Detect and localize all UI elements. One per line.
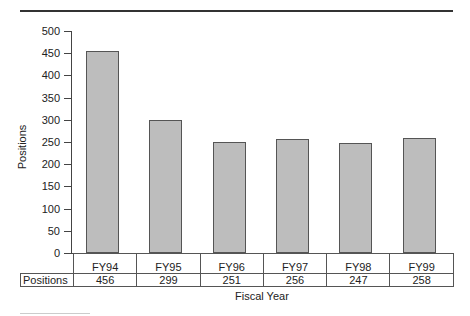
value-cell: 299 — [137, 274, 200, 287]
y-tick-label: 250 — [20, 136, 60, 148]
bar-fy95 — [149, 120, 182, 253]
y-tick-label: 400 — [20, 69, 60, 81]
x-axis-label: Fiscal Year — [235, 290, 289, 302]
top-rule — [20, 10, 453, 12]
value-cell: 456 — [74, 274, 137, 287]
y-tick — [64, 75, 71, 76]
value-cell: 256 — [263, 274, 326, 287]
category-label: FY95 — [137, 254, 200, 274]
bar-fy97 — [276, 139, 309, 253]
y-axis — [71, 31, 72, 253]
y-tick — [64, 209, 71, 210]
value-cell: 247 — [327, 274, 390, 287]
y-tick-label: 50 — [20, 225, 60, 237]
y-tick-label: 150 — [20, 180, 60, 192]
bar-fy99 — [403, 138, 436, 253]
data-table: FY94FY95FY96FY97FY98FY99 Positions 45629… — [20, 253, 454, 287]
y-tick — [64, 31, 71, 32]
category-label: FY94 — [74, 254, 137, 274]
y-tick-label: 300 — [20, 114, 60, 126]
category-label: FY98 — [327, 254, 390, 274]
y-tick — [64, 231, 71, 232]
category-label: FY96 — [200, 254, 263, 274]
data-table-row-label: Positions — [21, 274, 74, 287]
bar-fy98 — [339, 143, 372, 253]
y-tick — [64, 98, 71, 99]
y-tick — [64, 142, 71, 143]
y-tick-label: 200 — [20, 158, 60, 170]
y-tick-label: 450 — [20, 47, 60, 59]
y-tick-label: 100 — [20, 203, 60, 215]
value-cell: 258 — [390, 274, 453, 287]
y-tick — [64, 120, 71, 121]
y-tick — [64, 53, 71, 54]
y-tick-label: 350 — [20, 92, 60, 104]
bar-fy94 — [86, 51, 119, 253]
y-tick-label: 500 — [20, 25, 60, 37]
data-table-value-row: Positions 456299251256247258 — [21, 274, 454, 287]
y-tick — [64, 164, 71, 165]
value-cell: 251 — [200, 274, 263, 287]
bar-fy96 — [213, 142, 246, 253]
data-table-corner — [21, 254, 74, 274]
data-table-header-row: FY94FY95FY96FY97FY98FY99 — [21, 254, 454, 274]
category-label: FY97 — [263, 254, 326, 274]
y-tick — [64, 186, 71, 187]
bottom-rule — [20, 313, 90, 314]
category-label: FY99 — [390, 254, 453, 274]
